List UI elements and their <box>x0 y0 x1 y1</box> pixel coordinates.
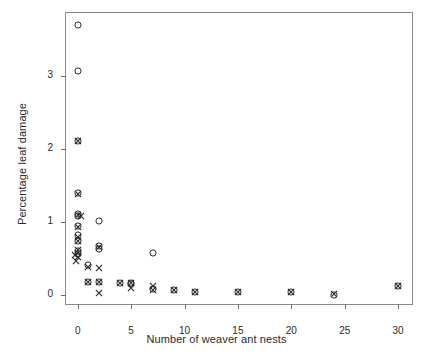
x-tick <box>291 304 292 309</box>
x-tick <box>78 304 79 309</box>
plot-area: 051015202530 <box>65 12 413 305</box>
y-axis-ticks <box>66 13 412 304</box>
y-tick <box>61 295 66 296</box>
y-tick <box>61 76 66 77</box>
x-tick <box>345 304 346 309</box>
y-tick-label: 0 <box>0 289 53 299</box>
x-tick <box>185 304 186 309</box>
x-axis-title: Number of weaver ant nests <box>0 333 433 345</box>
x-tick <box>238 304 239 309</box>
x-tick <box>131 304 132 309</box>
y-axis-labels: 0123 <box>0 0 57 361</box>
y-axis-title: Percentage leaf damage <box>16 74 28 254</box>
y-tick <box>61 149 66 150</box>
scatter-plot-figure: 0123 051015202530 Number of weaver ant n… <box>0 0 433 361</box>
y-tick <box>61 222 66 223</box>
x-tick <box>398 304 399 309</box>
